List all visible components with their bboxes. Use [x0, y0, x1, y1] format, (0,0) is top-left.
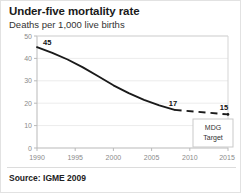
- chart-subtitle: Deaths per 1,000 live births: [9, 19, 125, 30]
- y-tick-10: 10: [24, 122, 32, 129]
- footer-divider: [7, 167, 236, 168]
- target-point-marker: [227, 113, 230, 116]
- y-axis-labels: 50 40 30 20 10 0: [24, 33, 32, 152]
- x-tick-2010: 2010: [182, 154, 198, 161]
- mdg-target-callout: MDG Target: [193, 119, 233, 147]
- x-tick-2005: 2005: [144, 154, 160, 161]
- y-tick-40: 40: [24, 55, 32, 62]
- mdg-target-line2: Target: [203, 134, 223, 142]
- mdg-target-line1: MDG: [205, 124, 221, 131]
- x-tick-1995: 1995: [67, 154, 83, 161]
- chart-card: Under-five mortality rate Deaths per 1,0…: [0, 0, 241, 193]
- y-tick-0: 0: [28, 145, 32, 152]
- line-chart-svg: 50 40 30 20 10 0 1990 1995 2000: [1, 31, 241, 164]
- label-value-45: 45: [43, 38, 51, 47]
- y-tick-50: 50: [24, 33, 32, 40]
- y-tick-20: 20: [24, 100, 32, 107]
- label-value-17: 17: [169, 99, 177, 108]
- label-value-15: 15: [220, 103, 228, 112]
- page-title: Under-five mortality rate: [9, 5, 139, 17]
- x-tick-2000: 2000: [106, 154, 122, 161]
- x-axis-labels: 1990 1995 2000 2005 2010 2015: [29, 154, 235, 161]
- chart-plot-area: 50 40 30 20 10 0 1990 1995 2000: [1, 31, 241, 164]
- source-value: IGME 2009: [43, 173, 86, 183]
- x-tick-2015: 2015: [219, 154, 235, 161]
- y-tick-30: 30: [24, 77, 32, 84]
- source-note: Source: IGME 2009: [9, 173, 86, 183]
- x-tick-1990: 1990: [29, 154, 45, 161]
- series-observed-line: [37, 47, 175, 110]
- source-label: Source:: [9, 173, 41, 183]
